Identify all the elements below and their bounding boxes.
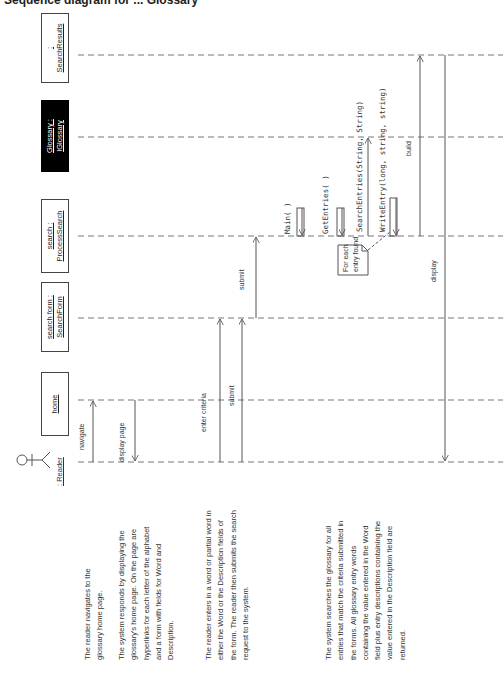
label-searchentries: SearchEntries(String, String) bbox=[355, 101, 364, 232]
note-connector bbox=[368, 232, 390, 250]
label-navigate: navigate bbox=[78, 424, 85, 450]
description-1: The reader navigates to the glossary hom… bbox=[82, 540, 107, 660]
actor-leg-right bbox=[42, 460, 50, 468]
activation-getentries bbox=[337, 208, 344, 236]
note-text: For each entry found bbox=[341, 237, 361, 272]
participant-searchresults[interactable]: :SearchResults bbox=[41, 13, 69, 83]
participant-glossary-interface[interactable]: Glossary :IGlossary bbox=[41, 100, 69, 172]
activation-main bbox=[297, 208, 304, 236]
label-getentries: GetEntries( ) bbox=[321, 175, 330, 234]
description-4: The system searches the glossary for all… bbox=[323, 520, 409, 660]
participant-searchform[interactable]: search form :SearchForm bbox=[41, 282, 69, 352]
participant-home[interactable]: home bbox=[41, 372, 69, 436]
actor-leg-left bbox=[42, 452, 50, 460]
label-build: build bbox=[405, 141, 412, 156]
participant-search[interactable]: search :ProcessSearch bbox=[41, 199, 69, 273]
label-enter-criteria: enter criteria bbox=[200, 393, 207, 432]
label-writeentry: WriteEntry(long, string, string) bbox=[378, 88, 387, 233]
description-3: The reader enters in a word or partial w… bbox=[203, 510, 252, 660]
label-display: display bbox=[430, 260, 437, 282]
actor-head bbox=[17, 455, 27, 465]
label-display-page: display page bbox=[118, 423, 125, 462]
actor-reader-label: : Reader bbox=[55, 457, 64, 486]
description-2: The system responds by displaying the gl… bbox=[116, 515, 177, 660]
label-submit-1: submit bbox=[228, 385, 235, 406]
label-main: Main( ) bbox=[283, 202, 292, 234]
label-submit-2: submit bbox=[238, 269, 245, 290]
